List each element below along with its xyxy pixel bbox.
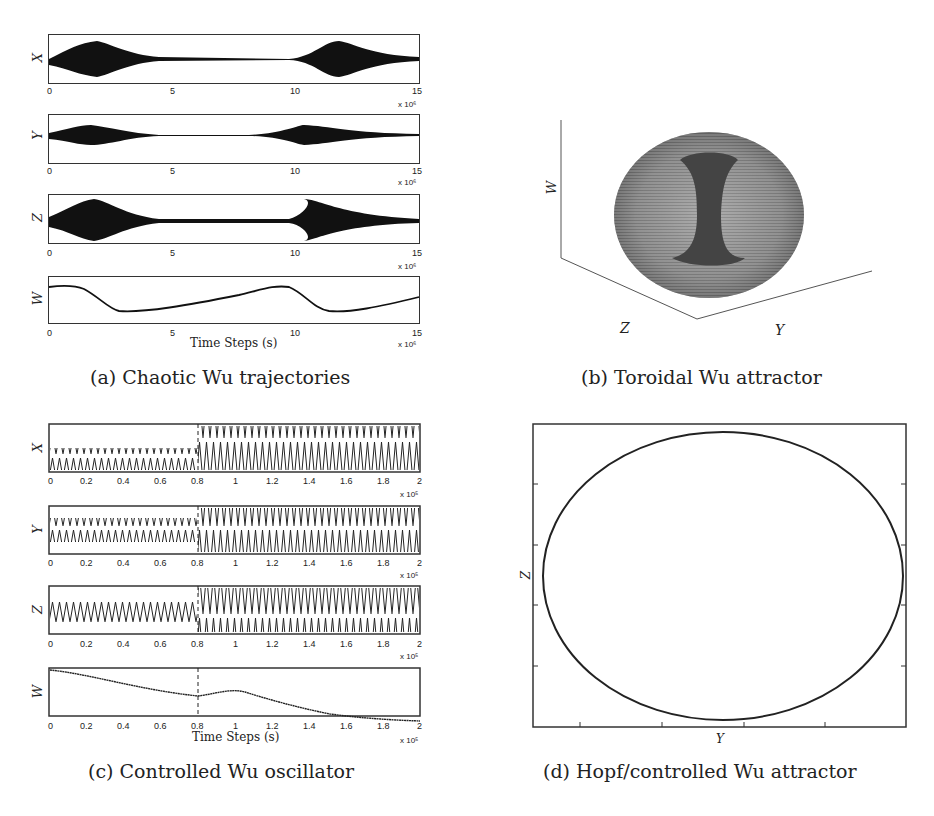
panel-d-y-label: Y — [716, 732, 724, 746]
panel-d-z-label: Z — [519, 571, 533, 579]
panel-d-caption: (d) Hopf/controlled Wu attractor — [543, 760, 857, 782]
panel-d-limit-cycle-plot — [0, 0, 934, 816]
